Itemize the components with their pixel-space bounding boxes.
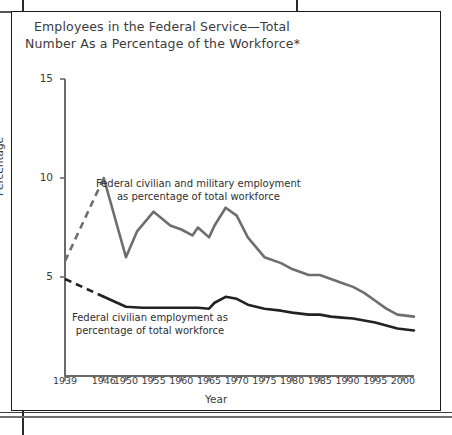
- chart-plot-area: [0, 0, 452, 435]
- upper-series-annotation-line-2: as percentage of total workforce: [96, 190, 301, 203]
- lower-series-annotation: Federal civilian employment as percentag…: [72, 311, 228, 337]
- lower-series-annotation-line-2: percentage of total workforce: [72, 324, 228, 337]
- upper-series-annotation-line-1: Federal civilian and military employment: [96, 177, 301, 190]
- lower-series-annotation-line-1: Federal civilian employment as: [72, 311, 228, 324]
- series-1-dashed-segment: [65, 279, 104, 297]
- page-canvas: Employees in the Federal Service—Total N…: [0, 0, 452, 435]
- upper-series-annotation: Federal civilian and military employment…: [96, 177, 301, 203]
